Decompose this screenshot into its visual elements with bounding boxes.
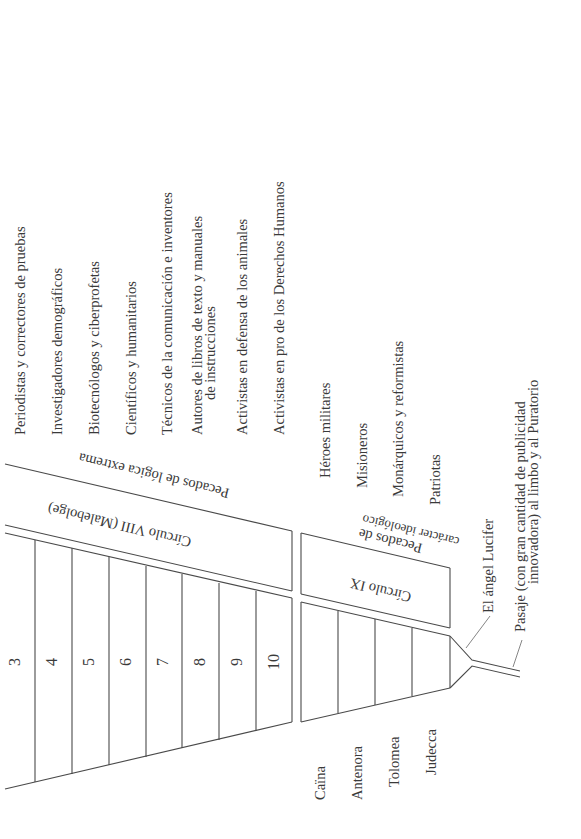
bolgia-number: 4 [43, 658, 60, 666]
zone-label: Misioneros [354, 422, 370, 488]
circle-ix-zone-labels: Héroes militares Misioneros Monárquicos … [317, 340, 443, 505]
bolgia-label: Técnicos de la comunicación e inventores [159, 192, 175, 435]
zone-name: Caïna [312, 766, 328, 800]
bolgia-number: 3 [6, 658, 23, 666]
bolgia-number: 9 [228, 658, 245, 666]
bolgia-number: 7 [154, 658, 171, 666]
passage-lower-edge [450, 666, 520, 688]
bolgia-label: Investigadores demográficos [49, 268, 65, 435]
passage-upper-edge [450, 636, 520, 671]
circle-viii-title: Círculo VIII (Malebolge) [46, 500, 193, 551]
bolgia-label: Activistas en pro de los Derechos Humano… [271, 181, 287, 435]
lucifer-leader-line [466, 616, 490, 648]
bolgia-label: Periodistas y correctores de pruebas [12, 226, 28, 435]
funnel-bottom-edge-viii [5, 722, 292, 789]
bolgia-label-continued: de instrucciones [202, 306, 218, 400]
bolgia-label: Activistas en defensa de los animales [234, 218, 250, 435]
bolgia-label: Biotecnólogos y ciberprofetas [86, 261, 102, 435]
circle-ix-zone-names: Caïna Antenora Tolomea Judecca [312, 729, 439, 800]
bolgia-number: 8 [191, 658, 208, 666]
zone-label: Monárquicos y reformistas [390, 340, 406, 497]
bolgia-label: Científicos y humanitarios [123, 281, 139, 435]
zone-name: Tolomea [386, 736, 402, 787]
passage-label-continued: innovadora) al limbo y al Puratorio [525, 380, 542, 584]
bolgia-number: 10 [265, 654, 282, 670]
zone-label: Patriotas [427, 454, 443, 505]
bolgia-labels: Periodistas y correctores de pruebas Inv… [12, 181, 287, 435]
zone-name: Antenora [349, 745, 365, 800]
zone-label: Héroes militares [317, 382, 333, 478]
zone-name: Judecca [423, 729, 439, 775]
circle-ix-title: Círculo IX [348, 575, 413, 605]
bolgia-band-top-edge [5, 533, 292, 598]
bolgia-numbers: 3 4 5 6 7 8 9 10 [6, 654, 282, 670]
circle-viii-category: Pecados de lógica extrema [76, 450, 230, 502]
bolgia-number: 5 [80, 658, 97, 666]
inferno-diagram: 3 4 5 6 7 8 9 10 Periodistas y corrector… [0, 0, 581, 839]
lucifer-label: El ángel Lucifer [480, 519, 496, 613]
bolgia-number: 6 [117, 658, 134, 666]
passage-leader-line [513, 640, 522, 667]
